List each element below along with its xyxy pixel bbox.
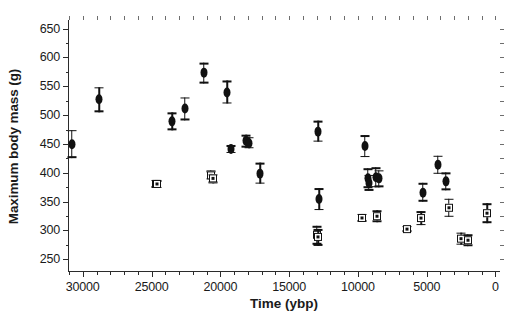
- x-axis-minor-tick: [234, 271, 235, 275]
- y-axis-minor-tick: [66, 43, 70, 44]
- right-axis-tick: [500, 43, 504, 44]
- data-point: [481, 203, 493, 223]
- marker-circle: [181, 104, 188, 114]
- x-axis-minor-tick: [262, 271, 263, 275]
- error-bar-cap-upper: [223, 81, 232, 83]
- right-axis-tick: [500, 202, 504, 203]
- data-point: [151, 180, 163, 188]
- top-axis-tick: [220, 16, 221, 20]
- top-axis-tick: [482, 16, 483, 20]
- marker-circle: [315, 126, 322, 136]
- right-axis-tick: [500, 130, 504, 131]
- x-axis-minor-tick: [413, 271, 414, 275]
- right-axis-tick: [500, 158, 504, 159]
- right-axis-tick: [500, 144, 504, 145]
- top-axis-tick: [124, 16, 125, 20]
- top-axis-tick: [317, 16, 318, 20]
- x-axis-minor-tick: [124, 271, 125, 275]
- error-bar-cap-upper: [168, 113, 177, 115]
- data-point: [312, 121, 324, 142]
- error-bar-cap-upper: [315, 188, 324, 190]
- right-axis-tick: [500, 230, 504, 231]
- x-axis-minor-tick: [440, 271, 441, 275]
- error-bar-cap-lower: [223, 102, 232, 104]
- data-point: [401, 226, 413, 232]
- error-bar-cap-lower: [417, 224, 426, 226]
- error-bar-cap-upper: [312, 226, 321, 228]
- x-axis-minor-tick: [165, 271, 166, 275]
- error-bar-cap-lower: [444, 216, 453, 218]
- y-axis-tick-label: 250: [40, 252, 60, 266]
- data-point: [359, 135, 371, 157]
- x-axis-minor-tick: [193, 271, 194, 275]
- top-axis-tick: [83, 16, 84, 20]
- marker-square: [358, 214, 366, 222]
- marker-square: [153, 180, 161, 188]
- figure: Maximum body mass (g) 250300350400450500…: [0, 0, 517, 325]
- top-axis-tick: [179, 16, 180, 20]
- data-point: [415, 211, 427, 225]
- error-bar-cap-lower: [199, 82, 208, 84]
- y-axis-tick-label: 350: [40, 195, 60, 209]
- data-point: [373, 170, 385, 187]
- x-axis-minor-tick: [468, 271, 469, 275]
- y-axis-tick-label: 450: [40, 137, 60, 151]
- error-bar-cap-lower: [374, 186, 383, 188]
- top-axis-tick: [165, 16, 166, 20]
- marker-square: [464, 236, 472, 244]
- error-bar-cap-upper: [199, 63, 208, 65]
- y-axis-minor-tick: [66, 158, 70, 159]
- x-axis-minor-tick: [317, 271, 318, 275]
- x-axis-tick: [220, 271, 221, 277]
- x-axis-minor-tick: [97, 271, 98, 275]
- y-axis-tick: [63, 173, 69, 174]
- right-axis-tick: [500, 216, 504, 217]
- error-bar-cap-lower: [256, 182, 265, 184]
- top-axis-tick: [152, 16, 153, 20]
- error-bar-cap-lower: [168, 129, 177, 131]
- top-axis-tick: [193, 16, 194, 20]
- data-point: [179, 97, 191, 120]
- error-bar-cap-lower: [314, 244, 323, 246]
- marker-circle: [228, 144, 235, 154]
- data-point: [443, 199, 455, 217]
- x-axis-tick: [289, 271, 290, 277]
- x-axis-minor-tick: [399, 271, 400, 275]
- top-axis-tick: [330, 16, 331, 20]
- y-axis-tick-label: 550: [40, 79, 60, 93]
- marker-square: [445, 204, 453, 212]
- top-axis-tick: [427, 16, 428, 20]
- top-axis-tick: [234, 16, 235, 20]
- y-axis-tick: [63, 230, 69, 231]
- error-bar-cap-lower: [441, 189, 450, 191]
- y-axis-title: Maximum body mass (g): [4, 20, 24, 272]
- error-bar-cap-upper: [256, 163, 265, 165]
- top-axis-tick: [110, 16, 111, 20]
- marker-square: [483, 209, 491, 217]
- y-axis-tick: [63, 259, 69, 260]
- y-axis-tick: [63, 86, 69, 87]
- error-bar-cap-upper: [433, 156, 442, 158]
- marker-square: [314, 233, 322, 241]
- top-axis-tick: [97, 16, 98, 20]
- marker-circle: [361, 141, 368, 151]
- top-axis-tick: [399, 16, 400, 20]
- error-bar-cap-upper: [371, 168, 380, 170]
- y-axis-minor-tick: [66, 101, 70, 102]
- x-axis-minor-tick: [138, 271, 139, 275]
- marker-circle: [246, 138, 253, 148]
- x-axis-tick-label: 15000: [272, 280, 306, 294]
- right-axis-tick: [500, 245, 504, 246]
- marker-circle: [419, 187, 426, 197]
- right-axis-tick: [500, 173, 504, 174]
- top-axis-tick: [468, 16, 469, 20]
- error-bar-cap-upper: [314, 229, 323, 231]
- error-bar-cap-upper: [444, 199, 453, 201]
- marker-square: [417, 214, 425, 222]
- y-axis-title-text: Maximum body mass (g): [7, 68, 22, 223]
- x-axis-minor-tick: [385, 271, 386, 275]
- data-point: [356, 214, 368, 222]
- right-axis-tick: [500, 101, 504, 102]
- error-bar-cap-lower: [360, 156, 369, 158]
- x-axis-minor-tick: [454, 271, 455, 275]
